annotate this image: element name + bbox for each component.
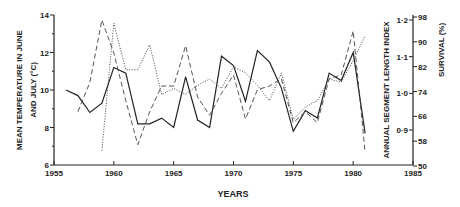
y-tick-label: 12 <box>40 49 49 58</box>
y-tick-label-survival: 74 <box>418 88 427 97</box>
y-axis-label-right-survival: SURVIVAL (%) <box>437 23 446 78</box>
chart: 68101214 1955196019651970197519801985 0·… <box>0 0 460 207</box>
y-tick-label-survival: 98 <box>418 13 427 22</box>
x-axis-label: YEARS <box>217 189 248 199</box>
x-tick-label: 1960 <box>105 169 123 178</box>
y-tick-label-survival: 50 <box>418 162 427 171</box>
series-dashed <box>78 20 365 152</box>
y-axis-label-left-line2: AND JULY (°C) <box>29 62 38 118</box>
y-tick-label: 10 <box>40 86 49 95</box>
y-tick-label-index: 1·1 <box>396 53 408 62</box>
y-axis-label-left-line1: MEAN TEMPERATURE IN JUNE <box>15 29 24 150</box>
y-tick-label-index: 1·0 <box>396 89 408 98</box>
y-tick-label-survival: 82 <box>418 63 427 72</box>
series-solid <box>66 51 365 134</box>
x-tick-label: 1975 <box>284 169 302 178</box>
y-tick-label-index: 0·9 <box>396 126 408 135</box>
y-tick-label-survival: 90 <box>418 38 427 47</box>
y-axis-label-right-index: ANNUAL SEGMENT LENGTH INDEX <box>382 21 391 159</box>
x-tick-label: 1955 <box>45 169 63 178</box>
y-tick-label-index: 1·2 <box>396 16 408 25</box>
y-tick-label-survival: 66 <box>418 112 427 121</box>
y-ticks-left: 68101214 <box>40 11 54 170</box>
x-tick-label: 1970 <box>225 169 243 178</box>
x-tick-label: 1980 <box>344 169 362 178</box>
y-ticks-right: 0·91·01·11·250586674829098 <box>396 13 427 171</box>
y-tick-label: 14 <box>40 11 49 20</box>
series-lines <box>66 20 365 152</box>
y-tick-label-survival: 58 <box>418 137 427 146</box>
x-ticks: 1955196019651970197519801985 <box>45 161 422 178</box>
x-tick-label: 1965 <box>165 169 183 178</box>
y-tick-label: 8 <box>45 124 50 133</box>
